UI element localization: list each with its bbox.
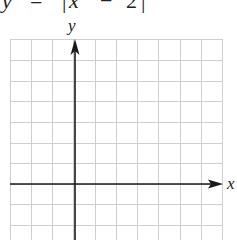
y-axis-label: y bbox=[68, 16, 76, 36]
y-axis bbox=[71, 39, 80, 240]
x-axis-label: x bbox=[227, 174, 235, 194]
coordinate-grid bbox=[0, 0, 237, 240]
grid-lines bbox=[10, 39, 223, 240]
